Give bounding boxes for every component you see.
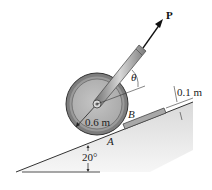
arrowhead-icon — [155, 19, 163, 28]
block-thickness-label: 0.1 m — [177, 86, 203, 98]
theta-label: θ — [131, 71, 137, 83]
point-b-label: B — [128, 108, 135, 120]
force-label: P — [166, 9, 173, 21]
diagram-svg: 20° 0.1 m — [0, 0, 212, 190]
force-arrow: P — [143, 9, 173, 48]
point-a-label: A — [106, 135, 114, 147]
radius-label: 0.6 m — [85, 116, 111, 128]
incline-angle-label: 20° — [82, 151, 97, 163]
statics-diagram: 20° 0.1 m — [0, 0, 212, 190]
